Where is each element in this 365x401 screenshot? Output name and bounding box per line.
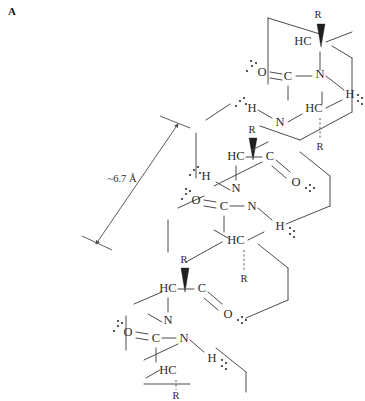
lone-pair-dots-o-r4 xyxy=(181,188,191,200)
atom-label-hc-r2: HC xyxy=(305,101,322,115)
lone-pair-dots-o-r5 xyxy=(237,316,247,324)
atom-label-o-r4: O xyxy=(191,193,200,207)
atom-label-n-r2: N xyxy=(275,115,284,129)
figure-root: A xyxy=(0,0,365,401)
atom-label-n-bottom: N xyxy=(179,331,188,345)
pitch-arrow-line xyxy=(96,124,178,244)
hydrogen-bond-dots-top-right xyxy=(357,94,363,105)
atom-label-n-r5: N xyxy=(163,313,172,327)
hydrogen-bond-dots-r4-left xyxy=(189,166,201,176)
atom-label-hc-bottom: HC xyxy=(159,363,176,377)
pitch-dimension-label: ~6.7 Å xyxy=(107,173,136,184)
atom-label-o-r5: O xyxy=(223,307,232,321)
atom-label-r-r3: R xyxy=(248,124,255,135)
atom-label-n-r4: N xyxy=(247,199,256,213)
residue-1-top: HC R N H C O xyxy=(246,9,363,105)
pitch-dimension-annotation: ~6.7 Å xyxy=(82,116,190,250)
atom-label-c-r3: C xyxy=(266,149,274,163)
wedge-bond-r-top xyxy=(317,24,325,47)
hydrogen-bond-dots-bottom-right xyxy=(221,359,227,370)
atom-label-h-r4-left: H xyxy=(201,169,210,183)
atom-label-r-top: R xyxy=(314,9,321,20)
atom-label-h-top-right: H xyxy=(345,87,354,101)
hydrogen-bond-dots-r4-right xyxy=(289,227,295,238)
atom-label-r-bottom: R xyxy=(172,390,179,401)
atom-label-r-r2: R xyxy=(316,141,323,152)
residue-3: R HC C O N xyxy=(216,124,315,195)
atom-label-c-bottom: C xyxy=(152,331,160,345)
lone-pair-dots-o-bottom xyxy=(113,320,123,332)
atom-label-c-r5: C xyxy=(198,281,206,295)
atom-label-h-r4-right: H xyxy=(275,219,284,233)
hydrogen-bond-dots-r2-left xyxy=(235,97,247,107)
residue-bottom: O C N H HC R xyxy=(113,320,227,401)
residue-5: R HC C O N xyxy=(148,254,247,327)
alpha-helix-structure-diagram: HC R N H C O H xyxy=(0,0,365,401)
lone-pair-dots-o-top xyxy=(246,60,257,72)
atom-label-hc-r5: HC xyxy=(159,281,176,295)
lone-pair-dots-o-r3 xyxy=(305,184,315,192)
atom-label-c-top: C xyxy=(284,69,292,83)
atom-label-r-r4: R xyxy=(240,273,247,284)
atom-label-h-r2-left: H xyxy=(247,101,256,115)
atom-label-hc-top: HC xyxy=(294,34,311,48)
atom-label-r-r5: R xyxy=(180,254,187,265)
atom-label-hc-r4: HC xyxy=(227,233,244,247)
atom-label-o-top: O xyxy=(257,65,266,79)
atom-label-n-r3: N xyxy=(231,181,240,195)
wedge-bond-r-r5 xyxy=(181,268,189,292)
atom-label-hc-r3: HC xyxy=(227,149,244,163)
atom-label-o-bottom: O xyxy=(123,325,132,339)
atom-label-o-r3: O xyxy=(291,175,300,189)
atom-label-c-r4: C xyxy=(220,199,228,213)
atom-label-n-top: N xyxy=(315,67,324,81)
atom-label-h-bottom-right: H xyxy=(207,351,216,365)
